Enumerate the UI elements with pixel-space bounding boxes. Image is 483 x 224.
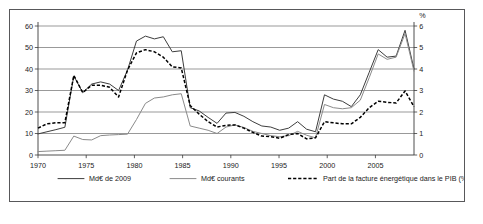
y-left-tick-labels: 0102030405060 <box>25 22 33 160</box>
series-path-0 <box>38 30 414 134</box>
chart-plot-area: 0102030405060 0123456 197019751980198519… <box>10 10 464 201</box>
y-left-tick-label: 10 <box>25 129 33 138</box>
x-tick-label: 1975 <box>78 161 94 170</box>
x-tick-label: 1970 <box>30 161 46 170</box>
y-right-unit-label-text: % <box>419 11 426 20</box>
legend-label-0: Md€ de 2009 <box>89 174 131 183</box>
y-right-tick-label: 5 <box>419 43 423 52</box>
x-tick-label: 1980 <box>126 161 142 170</box>
y-right-tick-label: 0 <box>419 151 423 160</box>
gridlines-group <box>38 26 414 134</box>
axes-group <box>38 22 414 155</box>
chart-figure: 0102030405060 0123456 197019751980198519… <box>9 9 465 202</box>
legend-label-2: Part de la facture énergétique dans le P… <box>323 174 464 183</box>
y-left-tick-label: 40 <box>25 65 33 74</box>
y-right-tick-labels: 0123456 <box>419 22 423 160</box>
x-tick-label: 1990 <box>223 161 239 170</box>
series-path-1 <box>38 34 414 152</box>
x-tick-label: 1995 <box>271 161 287 170</box>
y-right-tickmarks-group <box>414 26 417 155</box>
x-tick-label: 2005 <box>367 161 383 170</box>
series-path-2 <box>38 50 414 139</box>
y-right-tick-label: 3 <box>419 86 423 95</box>
y-left-tick-label: 0 <box>29 151 33 160</box>
x-tick-label: 2000 <box>319 161 335 170</box>
y-right-tick-label: 6 <box>419 22 423 31</box>
y-left-tick-label: 20 <box>25 108 33 117</box>
y-left-tick-label: 30 <box>25 86 33 95</box>
y-right-tick-label: 4 <box>419 65 423 74</box>
y-left-tick-label: 60 <box>25 22 33 31</box>
x-tickmarks-group <box>38 155 375 158</box>
y-right-unit-label: % <box>419 11 426 20</box>
chart-legend: Md€ de 2009Md€ courantsPart de la factur… <box>58 174 464 183</box>
y-right-tick-label: 2 <box>419 108 423 117</box>
y-left-tick-label: 50 <box>25 43 33 52</box>
legend-label-1: Md€ courants <box>201 174 245 183</box>
x-tick-label: 1985 <box>175 161 191 170</box>
y-left-tickmarks-group <box>35 26 38 155</box>
y-right-tick-label: 1 <box>419 129 423 138</box>
x-tick-labels: 19701975198019851990199520002005 <box>30 161 383 170</box>
